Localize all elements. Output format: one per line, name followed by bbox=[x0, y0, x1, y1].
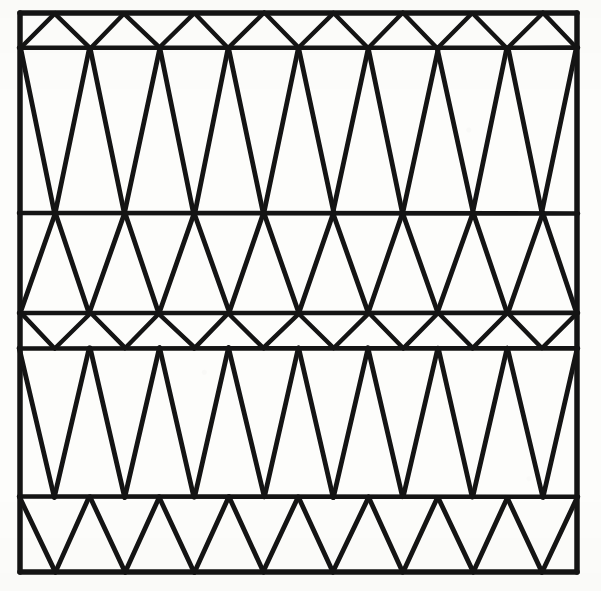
triangulated-lattice-drawing: Triangulated zigzag lattice pattern Scan… bbox=[0, 0, 601, 591]
zigzag-segment bbox=[299, 348, 333, 497]
zigzag-segment bbox=[90, 48, 124, 213]
zigzag-segment bbox=[195, 48, 228, 214]
zigzag-segment bbox=[21, 48, 55, 213]
zigzag-segment bbox=[543, 313, 578, 348]
zigzag-segment bbox=[229, 496, 264, 572]
zigzag-segment bbox=[298, 497, 333, 572]
zigzag-segment bbox=[160, 48, 193, 213]
zigzag-segment bbox=[228, 313, 264, 348]
zigzag-band-4 bbox=[21, 312, 578, 348]
zigzag-segment bbox=[542, 497, 577, 572]
zigzag-segment bbox=[90, 14, 124, 49]
zigzag-segment bbox=[264, 348, 298, 497]
zigzag-segment bbox=[89, 213, 124, 313]
zigzag-band-1 bbox=[20, 13, 577, 49]
zigzag-segment bbox=[334, 314, 369, 349]
zigzag-segment bbox=[264, 313, 300, 347]
zigzag-segment bbox=[473, 348, 507, 497]
zigzag-segment bbox=[507, 348, 542, 497]
zigzag-segment bbox=[19, 497, 55, 572]
zigzag-segment bbox=[159, 314, 195, 348]
zigzag-segment bbox=[473, 498, 507, 572]
zigzag-segment bbox=[299, 313, 334, 348]
zigzag-segment bbox=[229, 349, 265, 497]
outer-frame-layer bbox=[20, 13, 577, 572]
zigzag-segment bbox=[90, 497, 125, 573]
zigzag-segment bbox=[264, 213, 299, 312]
zigzag-segment bbox=[333, 48, 369, 214]
zigzag-segment bbox=[56, 213, 89, 313]
zigzag-segment bbox=[403, 48, 439, 212]
zigzag-segment bbox=[195, 14, 229, 49]
zigzag-segment bbox=[55, 14, 90, 48]
zigzag-segment bbox=[333, 497, 369, 572]
zigzag-segment bbox=[472, 313, 507, 348]
zigzag-segment bbox=[473, 49, 507, 214]
zigzag-segment bbox=[160, 348, 194, 497]
zigzag-segment bbox=[368, 213, 403, 313]
zigzag-segment bbox=[473, 13, 507, 48]
zigzag-segment bbox=[403, 313, 438, 348]
zigzag-segment bbox=[369, 13, 403, 48]
zigzag-segment bbox=[438, 497, 473, 572]
zigzag-segment bbox=[56, 497, 89, 572]
zigzag-segment bbox=[333, 213, 369, 313]
horizontal-rule-2 bbox=[19, 213, 578, 214]
zigzag-segment bbox=[125, 313, 159, 348]
zigzag-segment bbox=[21, 312, 55, 348]
zigzag-segment bbox=[90, 313, 125, 348]
zigzag-segment bbox=[507, 497, 542, 572]
zigzag-segment bbox=[264, 47, 299, 212]
zigzag-segment bbox=[437, 47, 473, 213]
zigzag-segment bbox=[368, 48, 402, 214]
zigzag-band-3 bbox=[20, 212, 576, 313]
zigzag-segment bbox=[125, 49, 160, 214]
zigzag-segment bbox=[473, 213, 507, 314]
zigzag-segment bbox=[159, 13, 194, 48]
zigzag-segment bbox=[159, 214, 194, 314]
zigzag-segment bbox=[403, 213, 438, 313]
zigzag-segment bbox=[194, 313, 228, 349]
zigzag-segment bbox=[299, 48, 334, 213]
zigzag-band-layer bbox=[19, 13, 577, 573]
zigzag-segment bbox=[54, 348, 89, 497]
zigzag-segment bbox=[194, 498, 228, 573]
zigzag-segment bbox=[55, 48, 89, 213]
zigzag-segment bbox=[264, 13, 299, 48]
zigzag-segment bbox=[229, 13, 264, 48]
zigzag-segment bbox=[438, 349, 472, 498]
zigzag-band-6 bbox=[19, 496, 577, 572]
zigzag-segment bbox=[542, 48, 577, 213]
zigzag-segment bbox=[263, 497, 298, 572]
zigzag-segment bbox=[159, 497, 194, 573]
zigzag-segment bbox=[403, 497, 437, 571]
zigzag-segment bbox=[125, 214, 158, 314]
zigzag-segment bbox=[20, 213, 55, 313]
zigzag-segment bbox=[438, 313, 472, 348]
zigzag-segment bbox=[508, 313, 542, 348]
zigzag-segment bbox=[333, 348, 368, 497]
zigzag-segment bbox=[195, 347, 229, 497]
zigzag-band-2 bbox=[21, 47, 577, 213]
zigzag-segment bbox=[543, 349, 577, 498]
zigzag-segment bbox=[543, 212, 577, 313]
zigzag-segment bbox=[543, 13, 577, 49]
zigzag-band-5 bbox=[19, 347, 577, 497]
zigzag-segment bbox=[437, 213, 473, 314]
zigzag-segment bbox=[369, 313, 404, 349]
zigzag-segment bbox=[403, 13, 437, 48]
zigzag-segment bbox=[368, 348, 403, 497]
zigzag-segment bbox=[228, 48, 263, 214]
zigzag-segment bbox=[299, 214, 333, 314]
zigzag-segment bbox=[437, 13, 472, 48]
zigzag-segment bbox=[508, 213, 543, 313]
zigzag-segment bbox=[125, 348, 160, 497]
zigzag-segment bbox=[369, 497, 403, 572]
zigzag-segment bbox=[194, 213, 230, 313]
zigzag-segment bbox=[20, 13, 55, 48]
zigzag-segment bbox=[19, 348, 54, 497]
zigzag-segment bbox=[124, 13, 160, 48]
zigzag-segment bbox=[229, 213, 264, 313]
zigzag-segment bbox=[298, 13, 333, 48]
zigzag-segment bbox=[403, 348, 438, 496]
